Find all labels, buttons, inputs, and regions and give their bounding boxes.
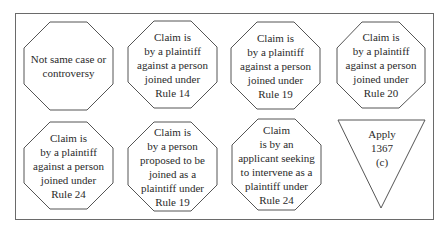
label-proposed-rule-19: Claim is by a person proposed to be join… [128, 122, 217, 211]
label-rule-20: Claim is by a plaintiff against a person… [337, 22, 425, 108]
label-rule-24-plaintiff: Claim is by a plaintiff against a person… [24, 122, 113, 209]
label-rule-14: Claim is by a plaintiff against a person… [128, 21, 217, 108]
label-intervene-rule-24: Claim is by an applicant seeking to inte… [232, 119, 321, 210]
label-apply-1367c: Apply 1367 (c) [352, 128, 412, 168]
label-rule-19: Claim is by a plaintiff against a person… [231, 22, 320, 109]
label-not-same-case: Not same case or controversy [24, 22, 113, 110]
